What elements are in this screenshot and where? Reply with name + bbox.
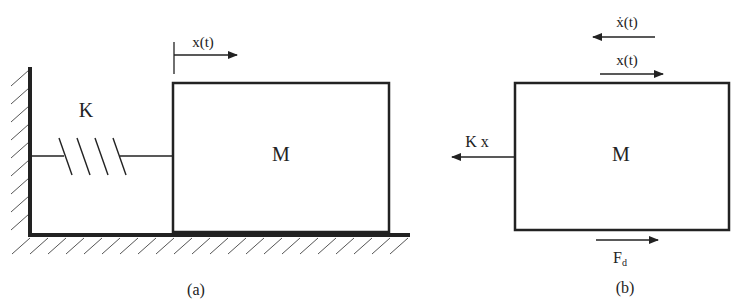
velocity-label: ẋ(t) bbox=[616, 14, 638, 31]
damping-force-label: Fd bbox=[613, 249, 627, 268]
mass-label-a: M bbox=[272, 143, 290, 165]
diagram-canvas: K M x(t) (a) ẋ(t) x(t) M K x Fd (b) bbox=[0, 0, 739, 307]
ground-hatching bbox=[12, 238, 408, 254]
displacement-label-b: x(t) bbox=[616, 52, 638, 69]
caption-b: (b) bbox=[616, 279, 635, 297]
spring-force-label: K x bbox=[465, 133, 489, 150]
figure-a: K M x(t) (a) bbox=[11, 34, 410, 299]
spring-label: K bbox=[79, 99, 94, 121]
figure-b: ẋ(t) x(t) M K x Fd (b) bbox=[452, 14, 729, 297]
displacement-label-a: x(t) bbox=[192, 34, 214, 51]
damping-force-symbol: F bbox=[613, 249, 622, 266]
wall-hatching bbox=[11, 70, 29, 230]
mass-label-b: M bbox=[612, 143, 630, 165]
damping-force-subscript: d bbox=[622, 257, 627, 268]
caption-a: (a) bbox=[187, 281, 205, 299]
spring bbox=[31, 138, 173, 175]
